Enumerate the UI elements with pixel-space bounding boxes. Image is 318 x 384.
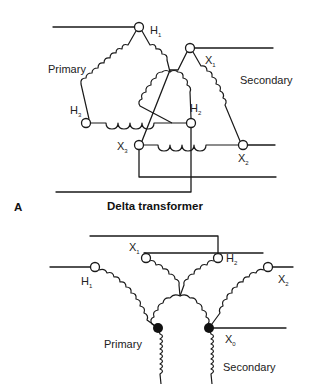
terminal-h2 <box>187 119 196 128</box>
label-h1-b: H1 <box>81 275 93 289</box>
delta-transformer-diagram: H1 X1 H3 H2 X3 X2 Primary Secondary A De… <box>14 23 293 214</box>
label-h2: H2 <box>190 102 202 116</box>
terminal-h3 <box>82 119 91 128</box>
secondary-coil-x1 <box>149 261 180 297</box>
primary-coil-h2-inner <box>170 71 191 119</box>
terminal-x1 <box>186 44 195 53</box>
secondary-neutral-node <box>204 323 214 333</box>
label-x2: X2 <box>238 152 249 166</box>
label-secondary-b: Secondary <box>223 361 276 373</box>
secondary-coil-center <box>180 295 209 328</box>
label-primary-b: Primary <box>104 338 142 350</box>
primary-coil-h2 <box>151 261 214 329</box>
panel-title-a: Delta transformer <box>107 200 203 212</box>
label-h1: H1 <box>150 24 162 38</box>
wire-h2-line <box>56 128 191 192</box>
terminal-x2 <box>239 141 248 150</box>
secondary-coil-x1-x2 <box>193 52 240 141</box>
secondary-coil-neutral <box>209 328 214 384</box>
label-x0-b: X0 <box>225 333 236 347</box>
terminal-h1 <box>135 23 144 32</box>
label-x1: X1 <box>205 54 216 68</box>
terminal-x3 <box>135 141 144 150</box>
secondary-coil-x2 <box>209 269 264 328</box>
label-h3: H3 <box>70 104 82 118</box>
secondary-wire-x1-x3 <box>142 52 187 141</box>
label-x1-b: X1 <box>129 241 140 255</box>
terminal-h2-b <box>214 254 223 263</box>
transformer-diagram: H1 X1 H3 H2 X3 X2 Primary Secondary A De… <box>0 0 318 384</box>
wye-transformer-diagram: H1 X1 H2 X2 X0 Primary Secondary <box>50 236 293 384</box>
label-secondary-a: Secondary <box>240 74 293 86</box>
primary-coil-h3-h2 <box>91 123 186 129</box>
primary-coil-h1-h3 <box>81 31 136 119</box>
terminal-x2-b <box>264 263 273 272</box>
primary-coil-h1 <box>99 269 158 328</box>
label-primary-a: Primary <box>48 63 86 75</box>
primary-neutral-node <box>153 323 163 333</box>
terminal-h1-b <box>91 263 100 272</box>
wire-h2-top <box>90 236 218 253</box>
label-x2-b: X2 <box>278 273 289 287</box>
panel-letter-a: A <box>14 201 22 213</box>
label-h2-b: H2 <box>226 252 238 266</box>
label-x3: X3 <box>117 140 128 154</box>
terminal-x1-b <box>142 254 151 263</box>
primary-coil-neutral <box>158 328 163 384</box>
wire-x3-line <box>139 150 276 177</box>
